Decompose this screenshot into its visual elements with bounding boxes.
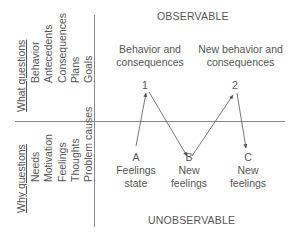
what-item: Goals [82, 56, 94, 83]
why-item: Motivation [42, 134, 54, 182]
arrow-2-to-c [237, 93, 246, 148]
unobservable-header: UNOBSERVABLE [148, 214, 235, 226]
node-1-caption: Behavior and consequences [110, 43, 190, 69]
why-item: Thoughts [69, 138, 81, 182]
observable-header: OBSERVABLE [157, 10, 229, 22]
what-item: Antecedents [42, 25, 54, 83]
arrow-a-to-1 [136, 93, 146, 146]
what-item: Plans [69, 57, 81, 83]
node-b: B New feelings [167, 151, 211, 190]
node-2: 2 [230, 79, 240, 92]
node-1: 1 [140, 79, 150, 92]
why-questions-title: Why questions [15, 144, 27, 213]
node-a: A Feelings state [114, 151, 158, 190]
arrow-1-to-b [149, 92, 187, 156]
what-item: Behavior [29, 42, 41, 83]
why-item: Needs [29, 152, 41, 182]
why-item: Problem causes [82, 107, 94, 182]
what-item: Consequences [56, 13, 68, 83]
node-2-caption: New behavior and consequences [193, 43, 288, 69]
what-questions-title: What questions [15, 40, 27, 112]
node-c: C New feelings [226, 151, 270, 190]
why-item: Feelings [56, 142, 68, 182]
arrow-b-to-2 [192, 95, 233, 156]
